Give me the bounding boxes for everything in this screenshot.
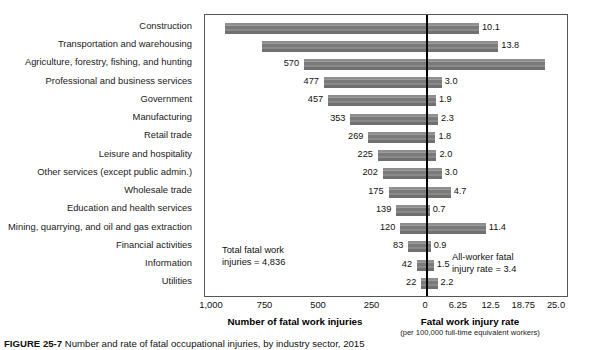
category-label: Professional and business services bbox=[46, 75, 192, 87]
rate-value-label: 3.0 bbox=[445, 75, 458, 88]
category-label: Mining, quarrying, and oil and gas extra… bbox=[8, 221, 192, 233]
annotation-total-injuries-line2: injuries = 4,836 bbox=[222, 257, 285, 269]
data-bar bbox=[389, 187, 451, 198]
figure-number: FIGURE 25-7 bbox=[4, 338, 62, 349]
chart-row: 2691.8 bbox=[205, 129, 567, 146]
data-bar bbox=[383, 168, 442, 179]
figure-caption-text: Number and rate of fatal occupational in… bbox=[62, 338, 364, 349]
annotation-all-worker-rate-line1: All-worker fatal bbox=[452, 252, 516, 264]
category-label: Manufacturing bbox=[133, 111, 192, 123]
data-bar bbox=[262, 41, 498, 52]
annotation-total-injuries: Total fatal work injuries = 4,836 bbox=[222, 245, 285, 268]
category-label: Information bbox=[145, 257, 192, 269]
data-bar bbox=[396, 205, 429, 216]
right-axis-tick-label: 12.5 bbox=[481, 299, 499, 311]
category-label: Utilities bbox=[162, 275, 192, 287]
data-bar bbox=[421, 278, 437, 289]
count-value-label: 120 bbox=[380, 221, 395, 234]
count-value-label: 83 bbox=[393, 239, 403, 252]
figure-container: ConstructionTransportation and warehousi… bbox=[0, 0, 592, 350]
left-axis-title: Number of fatal work injuries bbox=[227, 316, 362, 327]
chart-row: 2023.0 bbox=[205, 165, 567, 182]
right-axis-title: Fatal work injury rate bbox=[421, 316, 520, 327]
zero-axis-line bbox=[426, 15, 428, 296]
chart-row: 4773.0 bbox=[205, 74, 567, 91]
category-label: Retail trade bbox=[144, 129, 192, 141]
annotation-total-injuries-line1: Total fatal work bbox=[222, 245, 285, 257]
count-value-label: 269 bbox=[348, 130, 363, 143]
count-value-label: 353 bbox=[330, 112, 345, 125]
data-bar bbox=[328, 95, 436, 106]
category-label: Financial activities bbox=[116, 239, 192, 251]
rate-value-label: 0.9 bbox=[434, 239, 447, 252]
data-bar bbox=[350, 114, 438, 125]
rate-value-label: 0.7 bbox=[433, 203, 446, 216]
chart-row: 1754.7 bbox=[205, 184, 567, 201]
chart-row: 12011.4 bbox=[205, 220, 567, 237]
category-label: Education and health services bbox=[67, 202, 192, 214]
count-value-label: 457 bbox=[308, 93, 323, 106]
right-axis-tick-label: 0 bbox=[422, 299, 427, 311]
rate-value-label: 1.5 bbox=[437, 258, 450, 271]
count-value-label: 175 bbox=[368, 185, 383, 198]
left-axis-tick-label: 750 bbox=[257, 299, 273, 311]
data-bar bbox=[225, 23, 478, 34]
category-axis-labels: ConstructionTransportation and warehousi… bbox=[0, 14, 198, 297]
rate-value-label: 2.3 bbox=[441, 112, 454, 125]
data-bar bbox=[400, 223, 485, 234]
chart-row: 13.8 bbox=[205, 38, 567, 55]
figure-caption: FIGURE 25-7 Number and rate of fatal occ… bbox=[4, 338, 588, 350]
category-label: Construction bbox=[139, 20, 192, 32]
rate-value-label: 13.8 bbox=[501, 39, 519, 52]
left-axis-tick-label: 500 bbox=[310, 299, 326, 311]
left-axis-tick-label: 1,000 bbox=[199, 299, 222, 311]
count-value-label: 22 bbox=[406, 276, 416, 289]
count-value-label: 202 bbox=[362, 166, 377, 179]
data-bar bbox=[378, 150, 437, 161]
data-bar bbox=[304, 59, 545, 70]
rate-value-label: 2.0 bbox=[439, 148, 452, 161]
right-axis-tick-label: 25.0 bbox=[547, 299, 565, 311]
chart-row: 222.2 bbox=[205, 275, 567, 292]
chart-row: 570 bbox=[205, 56, 567, 73]
annotation-all-worker-rate-line2: injury rate = 3.4 bbox=[452, 264, 516, 276]
annotation-all-worker-rate: All-worker fatal injury rate = 3.4 bbox=[452, 252, 516, 275]
category-label: Agriculture, forestry, fishing, and hunt… bbox=[25, 56, 192, 68]
rate-value-label: 1.8 bbox=[438, 130, 451, 143]
right-axis-subtitle: (per 100,000 full-time equivalent worker… bbox=[400, 328, 540, 337]
category-label: Government bbox=[140, 93, 192, 105]
chart-row: 3532.3 bbox=[205, 111, 567, 128]
count-value-label: 570 bbox=[284, 57, 299, 70]
value-axis-ticks: 1,00075050025006.2512.518.7525.0 bbox=[204, 299, 568, 313]
right-axis-tick-label: 18.75 bbox=[512, 299, 535, 311]
category-label: Wholesale trade bbox=[124, 184, 192, 196]
chart-row: 4571.9 bbox=[205, 92, 567, 109]
chart-row: 10.1 bbox=[205, 20, 567, 37]
count-value-label: 225 bbox=[358, 148, 373, 161]
left-axis-tick-label: 250 bbox=[364, 299, 380, 311]
rate-value-label: 3.0 bbox=[445, 166, 458, 179]
count-value-label: 139 bbox=[376, 203, 391, 216]
rate-value-label: 1.9 bbox=[439, 93, 452, 106]
rate-value-label: 10.1 bbox=[482, 21, 500, 34]
category-label: Transportation and warehousing bbox=[58, 38, 192, 50]
count-value-label: 42 bbox=[402, 258, 412, 271]
category-label: Other services (except public admin.) bbox=[37, 166, 192, 178]
category-label: Leisure and hospitality bbox=[99, 148, 192, 160]
right-axis-tick-label: 6.25 bbox=[449, 299, 467, 311]
count-value-label: 477 bbox=[304, 75, 319, 88]
rate-value-label: 4.7 bbox=[454, 185, 467, 198]
rate-value-label: 11.4 bbox=[489, 221, 506, 234]
chart-row: 2252.0 bbox=[205, 147, 567, 164]
chart-row: 1390.7 bbox=[205, 202, 567, 219]
data-bar bbox=[324, 77, 442, 88]
rate-value-label: 2.2 bbox=[441, 276, 454, 289]
